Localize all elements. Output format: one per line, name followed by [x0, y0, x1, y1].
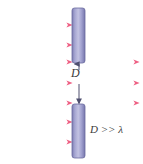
aperture-width-label: D [71, 67, 80, 79]
diagram-canvas [0, 0, 143, 164]
condition-label: D >> λ [90, 124, 123, 135]
outgoing-wave-rays [73, 62, 139, 103]
upper-barrier [72, 8, 85, 63]
wave-diffraction-figure: D D >> λ [0, 0, 143, 164]
lower-barrier [72, 104, 85, 158]
incoming-wave-rays [3, 25, 72, 142]
